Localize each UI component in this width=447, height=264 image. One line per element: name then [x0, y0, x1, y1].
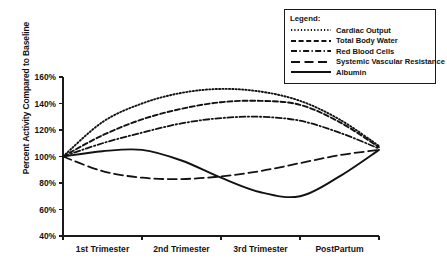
y-axis-tick-label: 160%	[35, 72, 57, 82]
y-axis-tick-labels: 40%60%80%100%120%140%160%	[35, 72, 57, 241]
legend-entry: Total Body Water	[290, 36, 430, 46]
legend-entry-label: Total Body Water	[336, 36, 398, 45]
legend-line-swatch-longdash	[290, 57, 332, 67]
series-line-total-body-water	[63, 101, 379, 157]
legend-entry: Systemic Vascular Resistance	[290, 57, 430, 67]
legend-line-swatch-dashed	[290, 36, 332, 46]
legend-entry-label: Systemic Vascular Resistance	[336, 57, 445, 66]
y-axis-tick-label: 120%	[35, 125, 57, 135]
x-axis-tick-label: PostPartum	[315, 244, 364, 254]
y-axis-tick-label: 100%	[35, 152, 57, 162]
y-axis-tick-label: 80%	[39, 178, 56, 188]
legend-entry-label: Cardiac Output	[336, 26, 391, 35]
chart-figure: Percent Activity Compared to Baseline 40…	[0, 0, 447, 264]
legend-title: Legend:	[290, 14, 430, 23]
legend-entry-label: Red Blood Cells	[336, 47, 394, 56]
legend-line-swatch-solid	[290, 67, 332, 77]
legend-entry-label: Albumin	[336, 68, 366, 77]
legend-line-swatch-dotted	[290, 25, 332, 35]
x-axis-tick-label: 2nd Trimester	[153, 244, 210, 254]
legend: Legend: Cardiac OutputTotal Body WaterRe…	[284, 9, 436, 84]
x-axis-tick-label: 3rd Trimester	[233, 244, 288, 254]
y-axis-tick-label: 60%	[39, 205, 56, 215]
legend-entry: Albumin	[290, 67, 430, 77]
y-axis-tick-label: 140%	[35, 99, 57, 109]
legend-line-swatch-dashdot	[290, 46, 332, 56]
x-axis-tick-label: 1st Trimester	[76, 244, 130, 254]
series-line-cardiac-output	[63, 89, 379, 157]
legend-entries: Cardiac OutputTotal Body WaterRed Blood …	[290, 25, 430, 77]
legend-entry: Cardiac Output	[290, 25, 430, 35]
y-axis-tick-label: 40%	[39, 231, 56, 241]
series-lines	[63, 89, 379, 197]
legend-entry: Red Blood Cells	[290, 46, 430, 56]
series-line-systemic-vascular-resistance	[63, 150, 379, 179]
x-axis-tick-labels: 1st Trimester2nd Trimester3rd TrimesterP…	[76, 244, 364, 254]
